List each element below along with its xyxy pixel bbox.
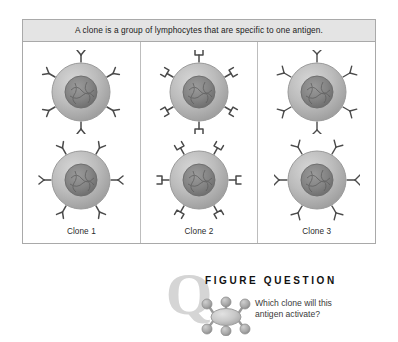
table-caption: A clone is a group of lymphocytes that a…: [23, 20, 375, 42]
clone-column-1: Clone 1: [23, 42, 140, 243]
clone-table: A clone is a group of lymphocytes that a…: [22, 19, 376, 244]
cell-slot: [141, 136, 258, 224]
figure-question-block: Q FIGURE QUESTION: [163, 266, 395, 338]
lymphocyte-cell-icon: [156, 138, 242, 222]
lymphocyte-cell-icon: [156, 50, 242, 134]
figure-question-line-1: Which clone will this: [255, 298, 395, 309]
figure-container: A clone is a group of lymphocytes that a…: [0, 0, 398, 342]
lymphocyte-cell-icon: [274, 138, 360, 222]
figure-question-line-2: antigen activate?: [255, 309, 395, 320]
cell-slot: [258, 48, 375, 136]
lymphocyte-cell-icon: [274, 50, 360, 134]
figure-question-text: Which clone will this antigen activate?: [255, 298, 395, 321]
clone-label-2: Clone 2: [185, 224, 214, 241]
clone-label-1: Clone 1: [67, 224, 96, 241]
clone-column-3: Clone 3: [257, 42, 375, 243]
clone-label-3: Clone 3: [302, 224, 331, 241]
cell-slot: [141, 48, 258, 136]
lymphocyte-cell-icon: [38, 138, 124, 222]
clone-columns: Clone 1: [23, 42, 375, 243]
antigen-molecule-icon: [197, 296, 255, 336]
cell-slot: [258, 136, 375, 224]
clone-column-2: Clone 2: [140, 42, 258, 243]
cell-slot: [23, 136, 140, 224]
cell-slot: [23, 48, 140, 136]
figure-question-title: FIGURE QUESTION: [205, 275, 337, 286]
lymphocyte-cell-icon: [38, 50, 124, 134]
